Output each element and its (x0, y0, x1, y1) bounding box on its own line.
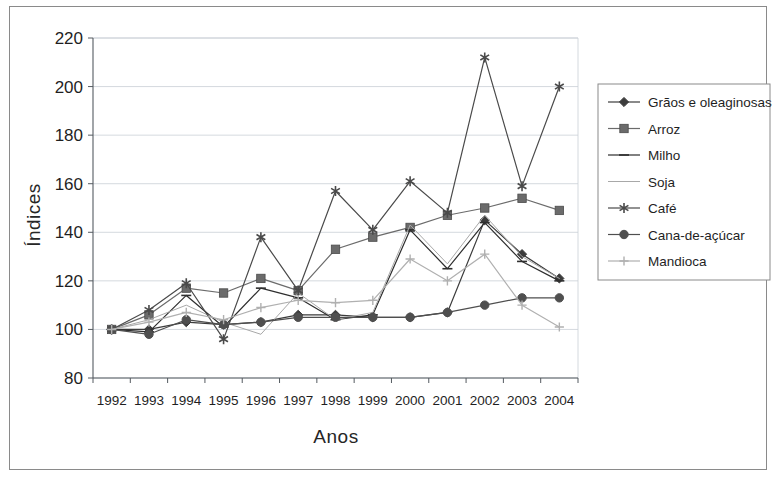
x-tick-label: 2001 (432, 393, 462, 408)
x-tick-label: 1998 (320, 393, 350, 408)
data-series-layer (107, 52, 565, 344)
data-point-marker-star (480, 52, 489, 62)
data-point-marker-circle (555, 294, 563, 302)
x-tick-label: 1999 (358, 393, 388, 408)
data-point-marker-square (331, 245, 339, 253)
gridlines (93, 38, 578, 378)
data-point-marker-star (219, 334, 228, 344)
y-tick-label: 120 (55, 272, 83, 291)
legend-label: Soja (648, 175, 676, 190)
data-point-marker-plus (480, 250, 489, 259)
data-point-marker-circle (145, 330, 153, 338)
data-point-marker-circle (331, 313, 339, 321)
legend-label: Mandioca (648, 254, 707, 269)
x-axis-tick-labels: 1992199319941995199619971998199920002001… (97, 393, 575, 408)
legend-label: Milho (648, 148, 680, 163)
legend-label: Arroz (648, 122, 681, 137)
legend-label: Grãos e oleaginosas (648, 95, 772, 110)
y-tick-label: 220 (55, 29, 83, 48)
x-axis-title: Anos (313, 426, 358, 447)
data-point-marker-square (481, 204, 489, 212)
x-axis-ticks (93, 378, 578, 383)
y-axis-ticks (88, 38, 93, 378)
data-point-marker-star (518, 181, 527, 191)
x-tick-label: 1995 (209, 393, 239, 408)
x-tick-label: 1992 (97, 393, 127, 408)
line-chart: 80100120140160180200220 1992199319941995… (0, 0, 778, 479)
chart-figure: 80100120140160180200220 1992199319941995… (0, 0, 778, 479)
data-point-marker-square (219, 289, 227, 297)
y-tick-label: 180 (55, 126, 83, 145)
series-line (112, 57, 560, 339)
plot-area-border (93, 38, 578, 378)
data-point-marker-square (518, 194, 526, 202)
data-point-marker-square (555, 206, 563, 214)
x-tick-label: 1993 (134, 393, 164, 408)
x-tick-label: 2002 (470, 393, 500, 408)
data-point-marker-circle (294, 313, 302, 321)
data-point-marker-circle (443, 308, 451, 316)
data-point-marker-plus (555, 322, 564, 331)
y-tick-label: 100 (55, 320, 83, 339)
x-tick-label: 2000 (395, 393, 425, 408)
y-tick-label: 200 (55, 78, 83, 97)
x-tick-label: 1994 (171, 393, 202, 408)
y-tick-label: 80 (64, 369, 83, 388)
x-tick-label: 1997 (283, 393, 313, 408)
data-point-marker-circle (369, 313, 377, 321)
data-point-marker-circle (620, 230, 628, 238)
data-point-marker-circle (406, 313, 414, 321)
legend-label: Cana-de-açúcar (648, 228, 745, 243)
data-point-marker-plus (517, 301, 526, 310)
y-tick-label: 160 (55, 175, 83, 194)
data-point-marker-circle (257, 318, 265, 326)
data-point-marker-plus (182, 308, 191, 317)
data-point-marker-plus (256, 303, 265, 312)
data-point-marker-plus (443, 276, 452, 285)
y-tick-label: 140 (55, 223, 83, 242)
chart-legend: Grãos e oleaginosasArrozMilhoSojaCaféCan… (598, 84, 772, 280)
x-tick-label: 2004 (544, 393, 575, 408)
x-tick-label: 1996 (246, 393, 276, 408)
data-point-marker-circle (481, 301, 489, 309)
data-point-marker-plus (331, 298, 340, 307)
data-point-marker-square (620, 124, 628, 132)
y-axis-title: Índices (23, 183, 44, 247)
legend-label: Café (648, 201, 677, 216)
data-point-marker-square (257, 274, 265, 282)
x-tick-label: 2003 (507, 393, 537, 408)
y-axis-tick-labels: 80100120140160180200220 (55, 29, 83, 388)
